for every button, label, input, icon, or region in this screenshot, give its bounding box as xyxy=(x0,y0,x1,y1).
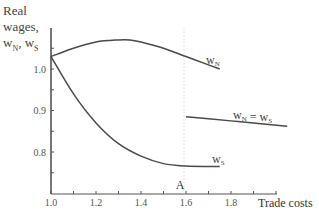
x-tick-label: 1.4 xyxy=(135,197,148,208)
y-tick-label: 0.9 xyxy=(34,105,47,116)
x-tick-label: 1.0 xyxy=(45,197,58,208)
curve-ws xyxy=(51,57,220,167)
label-wn-equals-ws: wN = wS xyxy=(233,108,272,125)
y-tick-label: 1.0 xyxy=(34,64,47,75)
curve-wn xyxy=(51,40,220,69)
curves xyxy=(51,40,287,167)
y-tick-label: 0.8 xyxy=(34,147,47,158)
label-wn: wN xyxy=(206,53,220,68)
curve-labels: wNwSwN = wS xyxy=(206,53,272,167)
x-tick-label: 1.8 xyxy=(225,197,238,208)
chart: 0.80.91.01.01.21.41.61.8Trade costs A wN… xyxy=(0,0,319,223)
x-tick-label: 1.6 xyxy=(180,197,193,208)
annotation-a-label: A xyxy=(176,178,185,192)
x-axis-title: Trade costs xyxy=(258,196,313,210)
x-tick-label: 1.2 xyxy=(90,197,103,208)
label-ws: wS xyxy=(212,152,225,167)
